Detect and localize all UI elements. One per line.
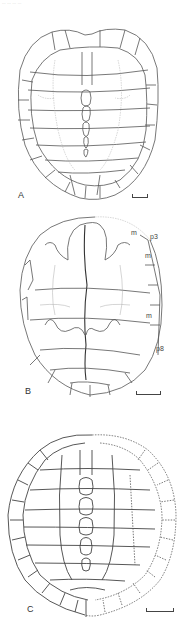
carapace-c-drawing [0, 405, 185, 627]
figure-b: m p3 m m p8 B [0, 205, 185, 405]
annotation-m-1: m [131, 229, 137, 236]
carapace-a-drawing [0, 0, 185, 205]
panel-label-b: B [25, 386, 31, 396]
scale-bar-c [146, 608, 174, 612]
figure-c: C [0, 405, 185, 627]
panel-label-c: C [27, 604, 34, 614]
annotation-m-3: m [146, 312, 152, 319]
annotation-p3: p3 [150, 233, 158, 240]
panel-label-a: A [18, 190, 24, 200]
scale-bar-a [132, 194, 148, 198]
annotation-m-2: m [145, 252, 151, 259]
annotation-p8: p8 [156, 345, 164, 352]
scale-bar-b [136, 391, 161, 395]
figure-a: A [0, 0, 185, 205]
